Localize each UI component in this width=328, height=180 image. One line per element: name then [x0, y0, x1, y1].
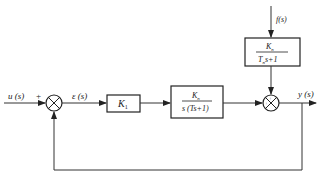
input-plus-sign: +: [36, 91, 41, 101]
block-diagram: u (s) + ε (s) K1 Kn s (Ts+1) f(s) Kn Tns…: [0, 0, 328, 180]
plant-block: Kn s (Ts+1): [171, 86, 223, 118]
controller-block: K1: [107, 95, 140, 112]
disturbance-denominator: Tns+1: [258, 55, 277, 65]
disturbance-block: Kn Tns+1: [245, 38, 300, 66]
disturbance-top-plus: +: [269, 96, 272, 101]
error-signal: ε (s): [62, 91, 106, 103]
input-summing-junction: [46, 95, 62, 111]
output-signal: y (s): [279, 89, 316, 103]
input-label: u (s): [8, 91, 24, 101]
plant-denominator: s (Ts+1): [182, 104, 209, 113]
output-label: y (s): [297, 89, 314, 99]
input-signal: u (s) +: [4, 91, 45, 103]
disturbance-label: f(s): [276, 15, 287, 24]
error-label: ε (s): [72, 91, 87, 101]
disturbance-left-plus: +: [265, 101, 268, 106]
disturbance-signal: f(s): [271, 6, 287, 37]
disturbance-summing-junction: + +: [263, 95, 279, 111]
